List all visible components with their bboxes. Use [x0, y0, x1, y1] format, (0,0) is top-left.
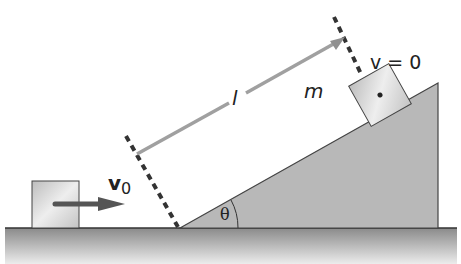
diagram-canvas	[0, 0, 461, 264]
ground	[5, 228, 457, 264]
initial-velocity-label: v0	[108, 173, 131, 193]
length-label: l	[232, 88, 238, 108]
mass-label: m	[304, 81, 323, 101]
dashed-line-bottom	[126, 136, 178, 227]
initial-velocity-subscript: 0	[121, 179, 131, 198]
final-velocity-label: v = 0	[370, 53, 421, 72]
initial-velocity-symbol: v	[108, 171, 121, 195]
angle-label: θ	[220, 207, 230, 223]
